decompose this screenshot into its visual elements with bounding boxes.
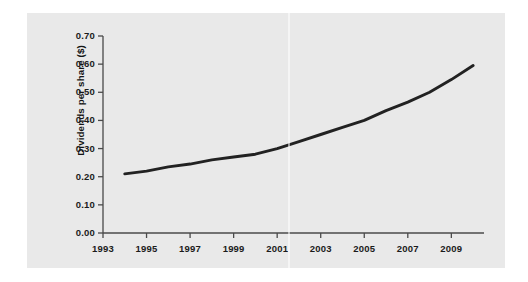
x-tick-label: 2009	[431, 243, 471, 254]
y-axis-ticks	[98, 36, 103, 233]
x-tick-label: 1997	[170, 243, 210, 254]
chart-panel: Dividends per share ($) 0.000.100.200.30…	[27, 13, 505, 268]
x-axis-ticks	[103, 233, 451, 238]
y-tick-label: 0.10	[55, 199, 95, 210]
y-tick-label: 0.30	[55, 143, 95, 154]
y-tick-label: 0.40	[55, 114, 95, 125]
x-tick-label: 2005	[344, 243, 384, 254]
y-tick-label: 0.20	[55, 171, 95, 182]
x-tick-label: 1993	[83, 243, 123, 254]
x-tick-label: 2003	[301, 243, 341, 254]
y-tick-label: 0.50	[55, 86, 95, 97]
x-tick-label: 1995	[127, 243, 167, 254]
line-chart-plot	[27, 13, 505, 268]
x-tick-label: 1999	[214, 243, 254, 254]
x-tick-label: 2007	[388, 243, 428, 254]
x-tick-label: 2001	[257, 243, 297, 254]
y-tick-label: 0.00	[55, 227, 95, 238]
y-tick-label: 0.70	[55, 30, 95, 41]
y-tick-label: 0.60	[55, 58, 95, 69]
data-series-line	[125, 66, 473, 174]
chart-figure: Dividends per share ($) 0.000.100.200.30…	[0, 0, 528, 282]
